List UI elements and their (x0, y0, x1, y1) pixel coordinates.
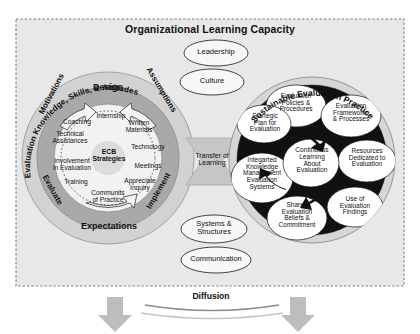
diagram-canvas: Organizational Learning Capacity Evaluat… (0, 0, 420, 334)
svg-text:Evaluation Knowledge, Skills,: Evaluation Knowledge, Skills, & Attitude… (23, 83, 140, 178)
right-outer-arc-label: Sustainable Evaluation Practice (249, 88, 376, 125)
left-outer-arc-label: Evaluation Knowledge, Skills, & Attitude… (23, 83, 140, 178)
arc-text-layer: Evaluation Knowledge, Skills, & Attitude… (0, 0, 420, 334)
svg-text:Sustainable Evaluation Practic: Sustainable Evaluation Practice (249, 88, 376, 125)
